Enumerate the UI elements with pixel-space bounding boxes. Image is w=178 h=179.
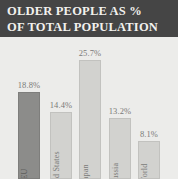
bar-category-label: United States — [52, 151, 61, 179]
bar-united-states[interactable]: United States — [50, 112, 72, 179]
bar-value-label: 8.1% — [140, 129, 158, 139]
bar-category-label: EU — [20, 168, 29, 179]
bar-group: 14.4%United States — [50, 37, 72, 179]
bar-group: 13.2%Russia — [109, 37, 131, 179]
bar-world[interactable]: World — [138, 141, 160, 179]
bar-value-label: 18.8% — [18, 80, 40, 90]
bar-category-label: World — [140, 164, 149, 179]
chart-plot-area: 18.8%EU14.4%United States25.7%Japan13.2%… — [0, 37, 178, 179]
bar-group: 8.1%World — [138, 37, 160, 179]
bar-eu[interactable]: EU — [18, 92, 40, 179]
bar-russia[interactable]: Russia — [109, 118, 131, 179]
chart-title-line-1: OLDER PEOPLE AS % — [7, 3, 178, 19]
bar-category-label: Japan — [81, 164, 90, 179]
bar-group: 18.8%EU — [18, 37, 40, 179]
bar-group: 25.7%Japan — [79, 37, 101, 179]
bar-value-label: 13.2% — [109, 106, 131, 116]
bar-value-label: 25.7% — [79, 48, 101, 58]
chart-figure: OLDER PEOPLE AS % OF TOTAL POPULATION 18… — [0, 0, 178, 179]
bar-category-label: Russia — [111, 163, 120, 179]
bar-value-label: 14.4% — [50, 100, 72, 110]
chart-title-banner: OLDER PEOPLE AS % OF TOTAL POPULATION — [0, 0, 178, 37]
chart-title-line-2: OF TOTAL POPULATION — [7, 19, 178, 35]
bar-japan[interactable]: Japan — [79, 60, 101, 179]
